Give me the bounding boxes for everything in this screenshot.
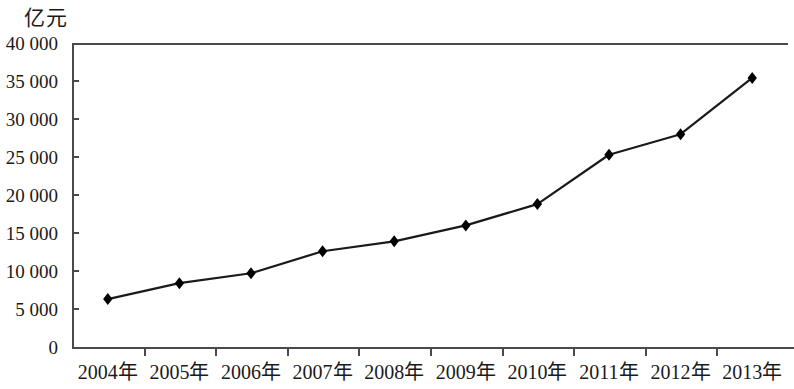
x-axis-tick-mark: [645, 347, 647, 356]
y-axis-tick-label: 30 000: [0, 110, 58, 129]
y-axis-tick-label: 40 000: [0, 34, 58, 53]
data-point-marker: [533, 198, 542, 210]
x-axis-tick-mark: [358, 347, 360, 356]
data-point-marker: [604, 149, 613, 161]
data-point-marker: [390, 235, 399, 247]
x-axis-tick-label: 2013年: [692, 362, 794, 382]
data-point-marker: [103, 293, 112, 305]
y-axis-tick-label: 10 000: [0, 262, 58, 281]
x-axis-tick-mark: [573, 347, 575, 356]
data-point-marker: [318, 245, 327, 257]
data-point-marker: [246, 267, 255, 279]
data-series-line: [72, 43, 788, 347]
y-axis-unit-label: 亿元: [24, 8, 67, 29]
x-axis-tick-mark: [430, 347, 432, 356]
x-axis-tick-mark: [144, 347, 146, 356]
y-axis-tick-label: 20 000: [0, 186, 58, 205]
data-point-marker: [175, 277, 184, 289]
data-point-marker: [748, 72, 757, 84]
y-axis-tick-label: 25 000: [0, 148, 58, 167]
x-axis-tick-mark: [287, 347, 289, 356]
y-axis-tick-label: 0: [0, 338, 58, 357]
y-axis-tick-label: 15 000: [0, 224, 58, 243]
data-point-marker: [676, 128, 685, 140]
x-axis-tick-mark: [215, 347, 217, 356]
y-axis-tick-label: 5 000: [0, 300, 58, 319]
y-axis-tick-label: 35 000: [0, 72, 58, 91]
x-axis-tick-mark: [502, 347, 504, 356]
x-axis-line: [72, 347, 794, 349]
data-point-marker: [461, 219, 470, 231]
x-axis-tick-mark: [716, 347, 718, 356]
line-chart: 亿元 05 00010 00015 00020 00025 00030 0003…: [0, 0, 794, 389]
plot-area: 05 00010 00015 00020 00025 00030 00035 0…: [72, 43, 788, 347]
